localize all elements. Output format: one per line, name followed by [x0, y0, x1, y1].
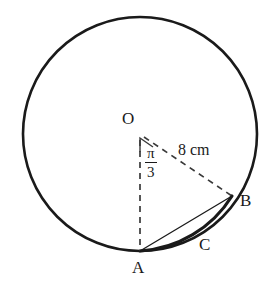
fraction-bar [145, 162, 157, 163]
label-point-o: O [122, 110, 134, 127]
angle-numerator: π [145, 146, 157, 162]
figure-canvas [0, 0, 275, 296]
label-point-c: C [199, 236, 210, 253]
circle-outline [23, 17, 257, 251]
angle-denominator: 3 [145, 164, 157, 180]
label-point-b: B [240, 192, 251, 209]
label-point-a: A [132, 259, 144, 276]
label-radius-length: 8 cm [178, 142, 210, 158]
label-angle-pi-over-3: π 3 [145, 146, 157, 180]
geometry-figure: O 8 cm π 3 B A C [0, 0, 275, 296]
